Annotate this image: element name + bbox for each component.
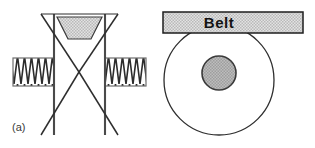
figure-part-label: (a) bbox=[12, 121, 25, 133]
belt-cross-section-trapezoid bbox=[57, 17, 102, 39]
right-view-group: Belt bbox=[163, 12, 303, 135]
pulley-hub-circle bbox=[202, 56, 236, 90]
right-shaft bbox=[105, 58, 146, 86]
left-shaft-hatch-body bbox=[13, 58, 54, 86]
belt-label: Belt bbox=[204, 14, 234, 31]
left-view-group bbox=[13, 14, 146, 135]
left-shaft bbox=[13, 58, 54, 86]
technical-diagram-svg: Belt bbox=[0, 0, 315, 148]
right-shaft-hatch-body bbox=[105, 58, 146, 86]
figure-container: Belt (a) bbox=[0, 0, 315, 148]
